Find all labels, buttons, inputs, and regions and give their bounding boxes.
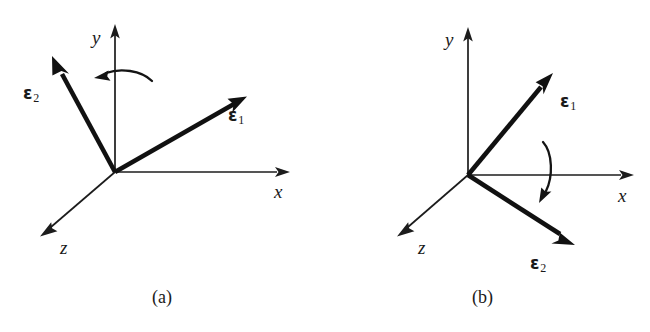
- panel-a-x-axis: [115, 167, 290, 177]
- panel-a-epsilon-1-label: ε1: [228, 107, 244, 124]
- panel-b-epsilon-2-vector: [468, 175, 575, 245]
- panel-b-epsilon-2-label: ε2: [530, 255, 546, 272]
- panel-b-z-axis: [397, 175, 468, 237]
- epsilon-glyph: ε: [530, 253, 540, 273]
- panel-b-axis-label-x: x: [618, 186, 626, 205]
- panel-b-axis-label-y: y: [445, 30, 453, 49]
- panel-b-epsilon-1-label: ε1: [560, 93, 576, 110]
- epsilon-subscript: 2: [540, 261, 546, 275]
- panel-a-caption: (a): [152, 288, 172, 306]
- figure-root: y x z ε1 ε2 (a) y x z ε1 ε2 (b): [0, 0, 650, 332]
- epsilon-glyph: ε: [560, 91, 570, 111]
- panel-a-axis-label-x: x: [274, 182, 282, 201]
- panel-b-y-axis: [463, 27, 473, 175]
- panel-b-rotation-arrow: [539, 142, 551, 203]
- epsilon-subscript: 1: [238, 113, 244, 127]
- panel-a-axis-label-z: z: [60, 238, 67, 257]
- panel-b-axis-label-z: z: [418, 238, 425, 257]
- panel-a-graphics: [40, 24, 290, 237]
- panel-a-z-axis: [40, 172, 115, 237]
- panel-b-epsilon-1-vector: [468, 73, 553, 175]
- panel-b-caption: (b): [472, 288, 493, 306]
- panel-a-y-axis: [110, 24, 120, 172]
- vector-diagram-canvas: [0, 0, 650, 332]
- panel-a-axis-label-y: y: [92, 28, 100, 47]
- epsilon-glyph: ε: [23, 83, 33, 103]
- panel-a-epsilon-2-label: ε2: [23, 85, 39, 102]
- panel-a-rotation-arrow: [94, 70, 152, 81]
- epsilon-subscript: 2: [33, 91, 39, 105]
- epsilon-subscript: 1: [570, 99, 576, 113]
- panel-b-graphics: [397, 27, 634, 245]
- epsilon-glyph: ε: [228, 105, 238, 125]
